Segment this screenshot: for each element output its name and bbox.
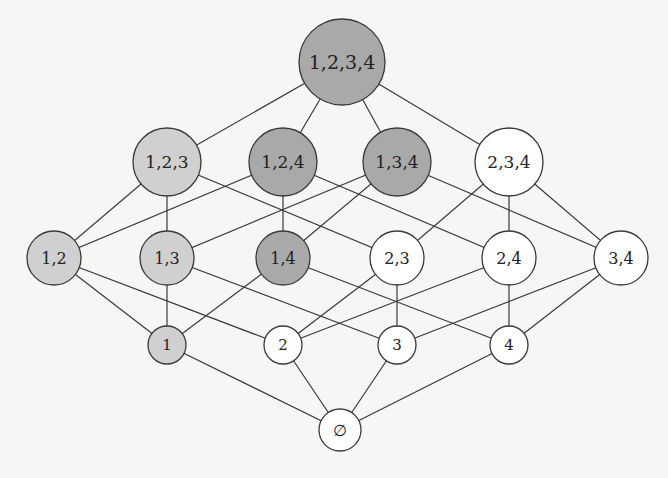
node-14: 1,4 bbox=[256, 231, 310, 285]
node-12: 1,2 bbox=[27, 231, 81, 285]
node-1234: 1,2,3,4 bbox=[299, 19, 385, 105]
node-234: 2,3,4 bbox=[475, 128, 543, 196]
node-124: 1,2,4 bbox=[249, 128, 317, 196]
node-label: ∅ bbox=[333, 421, 347, 440]
node-label: 1,3,4 bbox=[375, 152, 418, 172]
node-label: 1,3 bbox=[154, 249, 179, 268]
node-label: 1,2,3 bbox=[145, 152, 188, 172]
node-label: 2,4 bbox=[496, 249, 521, 268]
node-label: 1,4 bbox=[270, 249, 295, 268]
node-label: 1,2,4 bbox=[261, 152, 304, 172]
node-123: 1,2,3 bbox=[133, 128, 201, 196]
node-2: 2 bbox=[264, 326, 302, 364]
node-empty: ∅ bbox=[319, 409, 361, 451]
node-label: 2 bbox=[278, 336, 288, 354]
node-label: 1 bbox=[162, 336, 172, 354]
nodes-layer: 1,2,3,41,2,31,2,41,3,42,3,41,21,31,42,32… bbox=[27, 19, 648, 451]
node-13: 1,3 bbox=[140, 231, 194, 285]
node-23: 2,3 bbox=[370, 231, 424, 285]
node-label: 2,3 bbox=[384, 249, 409, 268]
node-34: 3,4 bbox=[594, 231, 648, 285]
node-134: 1,3,4 bbox=[363, 128, 431, 196]
edges-layer bbox=[54, 62, 621, 430]
node-label: 1,2 bbox=[41, 249, 66, 268]
node-label: 2,3,4 bbox=[487, 152, 530, 172]
node-4: 4 bbox=[490, 326, 528, 364]
node-label: 3,4 bbox=[608, 249, 633, 268]
edge-4-empty bbox=[340, 345, 509, 430]
node-label: 4 bbox=[504, 336, 514, 354]
edge-1-empty bbox=[167, 345, 340, 430]
node-label: 3 bbox=[392, 336, 402, 354]
node-24: 2,4 bbox=[482, 231, 536, 285]
node-1: 1 bbox=[148, 326, 186, 364]
subset-lattice-diagram: 1,2,3,41,2,31,2,41,3,42,3,41,21,31,42,32… bbox=[0, 0, 668, 478]
node-3: 3 bbox=[378, 326, 416, 364]
node-label: 1,2,3,4 bbox=[309, 51, 375, 73]
